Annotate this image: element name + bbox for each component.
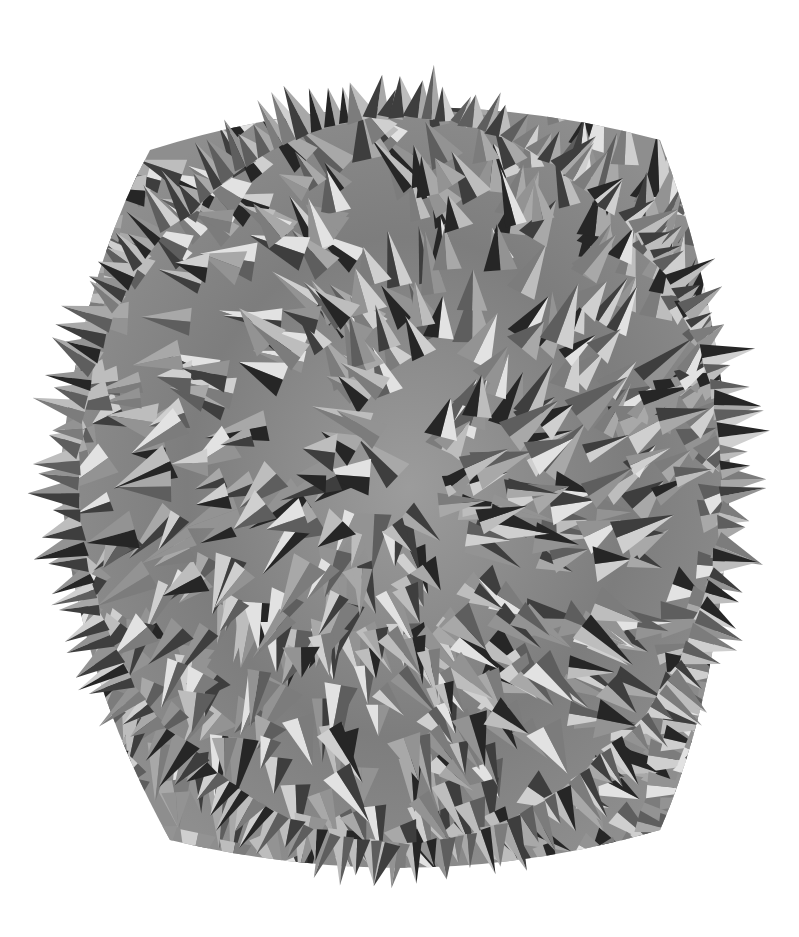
origami-sculpture-photo — [0, 0, 799, 937]
